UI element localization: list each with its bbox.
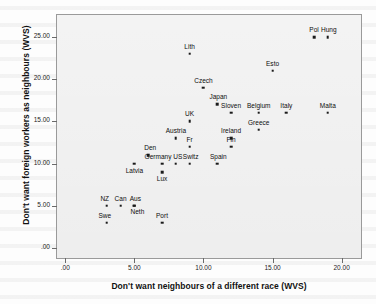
x-axis-tick-label: .00 bbox=[61, 264, 70, 271]
data-point-label: US bbox=[173, 153, 182, 160]
data-point bbox=[230, 145, 233, 148]
data-point bbox=[105, 204, 108, 207]
y-axis-tick-label: 20.00 bbox=[34, 74, 50, 81]
x-axis-tick-label: 20.00 bbox=[334, 264, 350, 271]
x-axis-tick-label: 15.00 bbox=[264, 264, 280, 271]
data-point-label: Esto bbox=[266, 60, 279, 67]
data-point-label: Spain bbox=[210, 153, 227, 160]
y-axis-tick-label: .00 bbox=[41, 243, 50, 250]
data-point-label: Germany bbox=[145, 153, 172, 160]
x-axis-tick: 5.00 bbox=[134, 258, 135, 263]
y-axis-tick: 20.00 bbox=[52, 79, 57, 80]
x-axis-tick: 15.00 bbox=[273, 258, 274, 263]
data-point bbox=[175, 137, 178, 140]
x-axis-tick-label: 5.00 bbox=[128, 264, 141, 271]
data-point bbox=[188, 162, 191, 165]
data-point bbox=[313, 36, 316, 39]
data-point-label: Greece bbox=[248, 119, 269, 126]
y-axis-tick-label: 25.00 bbox=[34, 32, 50, 39]
data-point bbox=[188, 145, 191, 148]
data-point bbox=[119, 204, 122, 207]
data-point bbox=[188, 53, 191, 56]
y-axis-tick-label: 15.00 bbox=[34, 116, 50, 123]
data-point-label: Lux bbox=[157, 175, 168, 182]
y-axis-tick-label: 10.00 bbox=[34, 159, 50, 166]
data-point-label: Austria bbox=[166, 127, 186, 134]
data-point-label: Port bbox=[156, 212, 168, 219]
data-point bbox=[257, 128, 260, 131]
data-point-label: Swe bbox=[98, 212, 111, 219]
x-axis-tick: 10.00 bbox=[203, 258, 204, 263]
data-point bbox=[230, 112, 233, 115]
data-point bbox=[133, 162, 136, 165]
data-point bbox=[216, 103, 219, 106]
data-point bbox=[271, 69, 274, 72]
data-point-label: Lith bbox=[184, 43, 195, 50]
data-point bbox=[285, 112, 288, 115]
y-axis-tick: .00 bbox=[52, 248, 57, 249]
data-point-label: Switz bbox=[183, 153, 199, 160]
data-point-label: Czech bbox=[194, 77, 213, 84]
data-point bbox=[161, 221, 164, 224]
data-point-label: Den bbox=[144, 144, 156, 151]
y-axis-tick: 15.00 bbox=[52, 121, 57, 122]
y-axis-tick: 5.00 bbox=[52, 206, 57, 207]
data-point-label: Fr bbox=[187, 136, 193, 143]
data-point-label: Can bbox=[115, 195, 127, 202]
data-point-label: UK bbox=[185, 110, 194, 117]
data-point-label: Sloven bbox=[221, 102, 241, 109]
data-point bbox=[327, 36, 330, 39]
y-axis-tick: 10.00 bbox=[52, 164, 57, 165]
data-point-label: Malta bbox=[320, 102, 336, 109]
plot-area: .005.0010.0015.0020.0025.00.005.0010.001… bbox=[56, 14, 362, 259]
data-point bbox=[257, 112, 260, 115]
data-point bbox=[230, 137, 233, 140]
data-point bbox=[175, 162, 178, 165]
data-point bbox=[216, 162, 219, 165]
data-point-label: Belgium bbox=[247, 102, 271, 109]
data-point-label: Pol bbox=[309, 26, 318, 33]
x-axis-tick: 20.00 bbox=[342, 258, 343, 263]
data-point bbox=[133, 204, 136, 207]
data-point bbox=[202, 86, 205, 89]
data-point-label: Latvia bbox=[126, 167, 143, 174]
scatter-plot-figure: Don't want foreign workers as neighbours… bbox=[0, 0, 376, 304]
data-point bbox=[161, 162, 164, 165]
data-point-label: Neth bbox=[130, 208, 144, 215]
data-point bbox=[161, 171, 164, 174]
data-point-label: NZ bbox=[100, 195, 109, 202]
data-point-label: Ireland bbox=[221, 127, 241, 134]
x-axis-tick: .00 bbox=[65, 258, 66, 263]
data-point-label: Italy bbox=[280, 102, 292, 109]
data-point bbox=[188, 120, 191, 123]
y-axis-tick: 25.00 bbox=[52, 37, 57, 38]
plot-area-sheen bbox=[57, 15, 361, 258]
x-axis-tick-label: 10.00 bbox=[195, 264, 211, 271]
data-point-label: Japan bbox=[209, 93, 227, 100]
x-axis-title: Don't want neighbours of a different rac… bbox=[56, 281, 362, 291]
data-point-label: Aus bbox=[130, 195, 141, 202]
y-axis-tick-label: 5.00 bbox=[37, 201, 50, 208]
data-point-label: Hung bbox=[321, 26, 337, 33]
data-point bbox=[327, 112, 330, 115]
data-point bbox=[105, 221, 108, 224]
y-axis-title: Don't want foreign workers as neighbours… bbox=[21, 0, 31, 250]
